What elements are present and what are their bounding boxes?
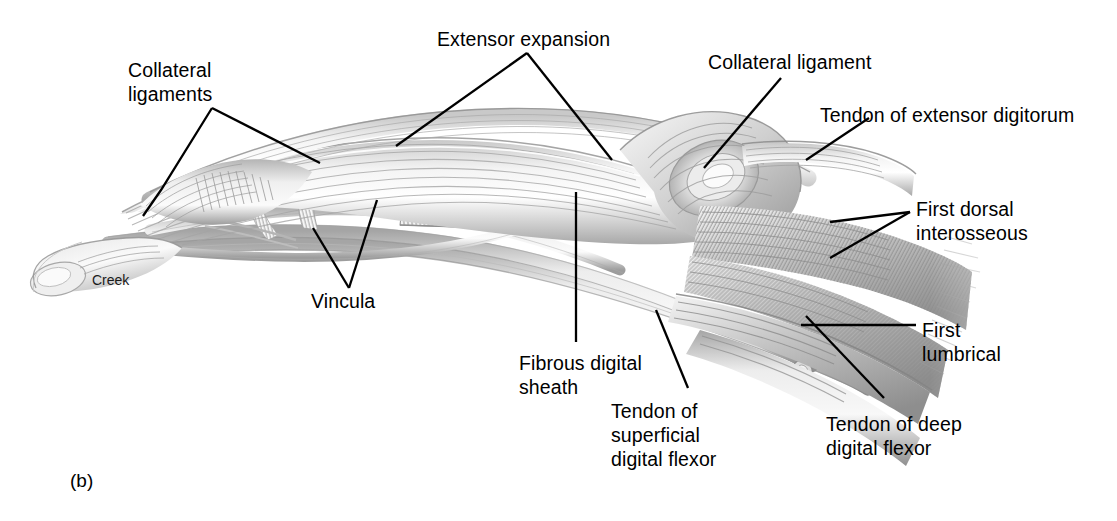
label-line: First — [922, 318, 1001, 342]
label-line: First dorsal — [916, 197, 1028, 221]
label-line: Extensor expansion — [437, 27, 610, 51]
label-collateral-ligaments: Collateralligaments — [128, 58, 212, 106]
leader-line-first-dorsal-interosseous-upper — [830, 212, 910, 222]
label-line: interosseous — [916, 221, 1028, 245]
label-line: Collateral ligament — [708, 50, 871, 74]
label-line: Tendon of deep — [826, 412, 962, 436]
artist-signature: Creek — [92, 272, 129, 288]
label-line: superficial — [611, 423, 716, 447]
leader-line-extensor-expansion-right — [527, 53, 612, 160]
label-line: Fibrous digital — [519, 351, 642, 375]
label-line: Tendon of — [611, 399, 716, 423]
label-line: digital flexor — [826, 436, 962, 460]
finger-tip — [27, 237, 182, 300]
leader-line-extensor-expansion-left — [396, 53, 527, 146]
label-vincula: Vincula — [311, 289, 375, 313]
label-line: sheath — [519, 375, 642, 399]
label-first-dorsal-interosseous: First dorsalinterosseous — [916, 197, 1028, 245]
label-tendon-of-deep-digital-flexor: Tendon of deepdigital flexor — [826, 412, 962, 460]
label-line: digital flexor — [611, 447, 716, 471]
label-line: ligaments — [128, 82, 212, 106]
label-line: Vincula — [311, 289, 375, 313]
label-fibrous-digital-sheath: Fibrous digitalsheath — [519, 351, 642, 399]
label-first-lumbrical: Firstlumbrical — [922, 318, 1001, 366]
label-collateral-ligament: Collateral ligament — [708, 50, 871, 74]
label-extensor-expansion: Extensor expansion — [437, 27, 610, 51]
label-line: Collateral — [128, 58, 212, 82]
anatomy-figure: CollateralligamentsExtensor expansionCol… — [0, 0, 1117, 521]
label-tendon-of-superficial-digital-flexor: Tendon ofsuperficialdigital flexor — [611, 399, 716, 471]
figure-caption: (b) — [70, 470, 93, 492]
label-line: lumbrical — [922, 342, 1001, 366]
label-tendon-of-extensor-digitorum: Tendon of extensor digitorum — [820, 103, 1074, 127]
label-line: Tendon of extensor digitorum — [820, 103, 1074, 127]
